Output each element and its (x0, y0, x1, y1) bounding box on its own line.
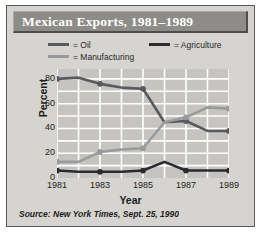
title-banner: Mexican Exports, 1981–1989 (13, 11, 248, 33)
data-point (183, 168, 189, 174)
data-point (140, 145, 146, 151)
chart-legend: = Oil = Agriculture = Manufacturing (48, 39, 234, 63)
x-axis-label: Year (6, 194, 255, 206)
x-tick-label: 1987 (176, 180, 196, 190)
x-tick-label: 1981 (47, 180, 67, 190)
source-note: Source: New York Times, Sept. 25, 1990 (19, 209, 179, 219)
y-tick-label: 40 (33, 122, 55, 132)
legend-label-manufacturing: = Manufacturing (73, 52, 134, 62)
data-point (97, 81, 103, 87)
legend-item-agriculture: = Agriculture (149, 39, 222, 50)
data-point (226, 106, 229, 112)
data-point (57, 168, 60, 174)
legend-label-agriculture: = Agriculture (174, 40, 222, 50)
legend-swatch-manufacturing (48, 55, 69, 58)
x-tick-label: 1985 (133, 180, 153, 190)
x-tick-label: 1983 (90, 180, 110, 190)
data-point (226, 168, 229, 174)
y-tick-label: 80 (33, 73, 55, 83)
y-tick-label: 60 (33, 98, 55, 108)
legend-swatch-oil (48, 43, 69, 46)
legend-item-oil: = Oil (48, 39, 91, 50)
data-point (140, 86, 146, 92)
data-point (140, 168, 146, 174)
legend-label-oil: = Oil (73, 40, 91, 50)
y-axis-ticks: 020406080 (29, 69, 55, 178)
plot-svg (57, 69, 229, 178)
data-point (97, 169, 103, 175)
data-point (183, 114, 189, 120)
legend-swatch-agriculture (149, 43, 170, 46)
page-title: Mexican Exports, 1981–1989 (14, 14, 193, 30)
data-point (97, 149, 103, 155)
plot-area (57, 69, 229, 178)
chart-figure: Mexican Exports, 1981–1989 = Oil = Agric… (0, 0, 261, 239)
data-point (57, 159, 60, 165)
x-axis-ticks: 19811983198519871989 (57, 180, 229, 193)
grid-lines (57, 69, 229, 178)
data-point (57, 76, 60, 82)
y-tick-label: 20 (33, 147, 55, 157)
x-tick-label: 1989 (219, 180, 239, 190)
legend-item-manufacturing: = Manufacturing (48, 51, 134, 62)
